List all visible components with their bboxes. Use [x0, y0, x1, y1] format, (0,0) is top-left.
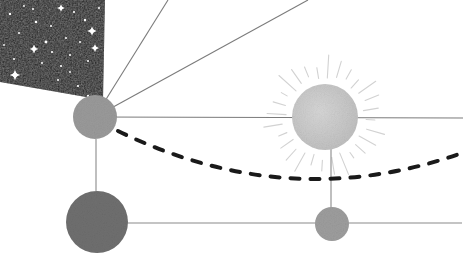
- sun-ray: [317, 68, 319, 79]
- sun-ray: [281, 139, 293, 148]
- sun-ray: [346, 70, 351, 79]
- sun-ray: [279, 133, 287, 136]
- star-dot: [3, 44, 5, 46]
- sun-ray: [332, 158, 335, 175]
- sight-line-diagonal: [95, 0, 308, 117]
- sun-ray: [273, 102, 285, 106]
- sun-ray: [350, 152, 354, 157]
- celestial-body-group: [66, 84, 358, 253]
- star-dot: [69, 54, 71, 56]
- sun-ray: [359, 136, 376, 145]
- sun-ray: [351, 80, 358, 88]
- star-dot: [13, 58, 15, 60]
- star-dot: [51, 51, 53, 53]
- sun-ray: [340, 153, 349, 174]
- sun-ray: [281, 93, 287, 96]
- sun-ray: [359, 81, 376, 93]
- sight-line-horizontal: [95, 117, 463, 118]
- sun-ray: [365, 95, 379, 101]
- star-dot: [23, 5, 25, 7]
- star-dot: [32, 8, 34, 10]
- planet-upper-left: [73, 95, 117, 139]
- sun-ray: [292, 70, 302, 84]
- star-dot: [50, 25, 52, 27]
- star-dot: [57, 79, 59, 81]
- star-dot: [18, 32, 20, 34]
- sun-ray: [279, 76, 296, 91]
- scene-svg: [0, 0, 470, 268]
- star-dot: [98, 7, 100, 9]
- star-dot: [45, 41, 48, 44]
- planet-lower-right: [315, 207, 349, 241]
- sun-ray: [367, 129, 385, 134]
- sun: [292, 84, 358, 150]
- star-dot: [69, 71, 71, 73]
- star-dot: [60, 65, 62, 67]
- star-dot: [73, 11, 75, 13]
- sun-ray: [327, 55, 328, 78]
- sun-ray: [366, 119, 375, 120]
- sun-ray: [267, 114, 286, 115]
- star-dot: [9, 13, 11, 15]
- sun-ray: [264, 124, 282, 127]
- axis-line-group: [96, 139, 462, 223]
- star-dot: [87, 60, 89, 62]
- sun-ray: [363, 108, 378, 110]
- star-dot: [84, 19, 86, 21]
- sun-ray: [337, 61, 342, 77]
- star-dot: [41, 62, 43, 64]
- star-dot: [79, 41, 81, 43]
- sun-ray: [311, 154, 314, 165]
- star-dot: [35, 21, 38, 24]
- night-sky-panel: [0, 0, 105, 100]
- sun-ray: [295, 153, 305, 171]
- sun-ray: [356, 145, 366, 154]
- sun-ray: [305, 67, 309, 77]
- planet-lower-left: [66, 191, 128, 253]
- star-dot: [77, 85, 79, 87]
- star-dot: [65, 37, 67, 39]
- starfield-group: [0, 0, 105, 100]
- sun-ray: [322, 160, 323, 171]
- celestial-diagram-canvas: [0, 0, 470, 268]
- sight-line-group: [95, 0, 463, 118]
- sun-ray: [286, 149, 296, 160]
